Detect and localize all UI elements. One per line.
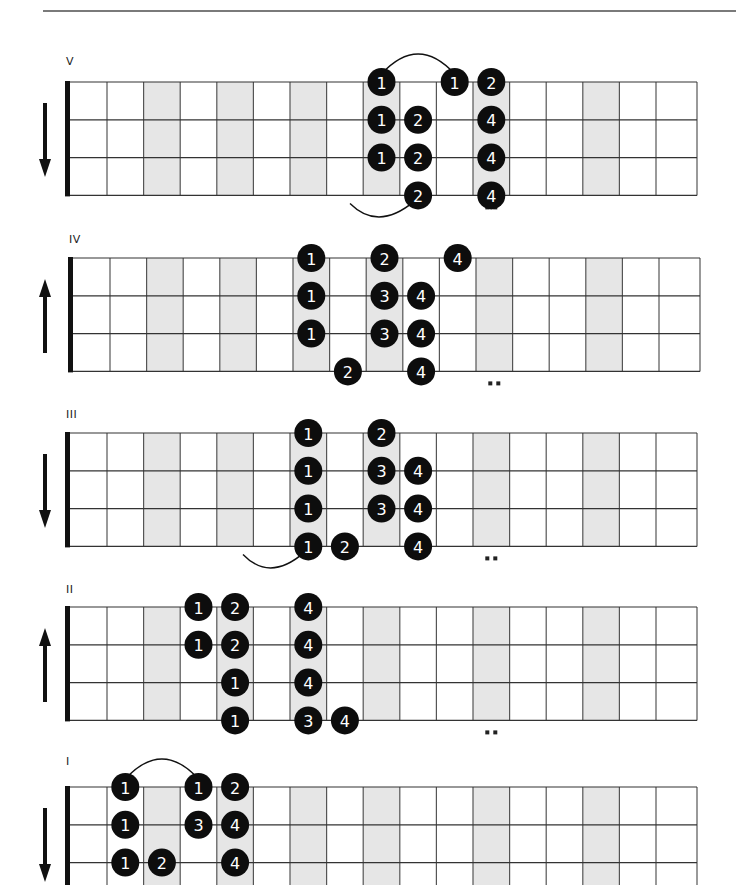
fret-marker-shade (363, 787, 400, 885)
finger-note: 1 (111, 849, 139, 877)
svg-text:4: 4 (230, 854, 240, 873)
finger-note: 2 (148, 849, 176, 877)
fret-marker-shade (290, 787, 327, 885)
finger-note: 4 (221, 811, 249, 839)
finger-note: 1 (111, 811, 139, 839)
svg-text:3: 3 (193, 816, 203, 835)
fret-marker-shade (473, 787, 510, 885)
fret-marker-shade (583, 787, 620, 885)
finger-note: 1 (111, 773, 139, 801)
finger-note: 3 (185, 811, 213, 839)
svg-text:1: 1 (120, 779, 130, 798)
svg-text:1: 1 (193, 779, 203, 798)
finger-note: 2 (221, 773, 249, 801)
svg-text:4: 4 (230, 816, 240, 835)
svg-text:2: 2 (230, 779, 240, 798)
fretboard-grid: 111213244 (0, 0, 736, 885)
nut (65, 786, 70, 885)
finger-note: 1 (185, 773, 213, 801)
svg-text:2: 2 (157, 854, 167, 873)
arrow-down-icon (39, 808, 51, 882)
svg-text:1: 1 (120, 816, 130, 835)
finger-note: 4 (221, 849, 249, 877)
slide-curve (125, 759, 198, 779)
svg-text:1: 1 (120, 854, 130, 873)
